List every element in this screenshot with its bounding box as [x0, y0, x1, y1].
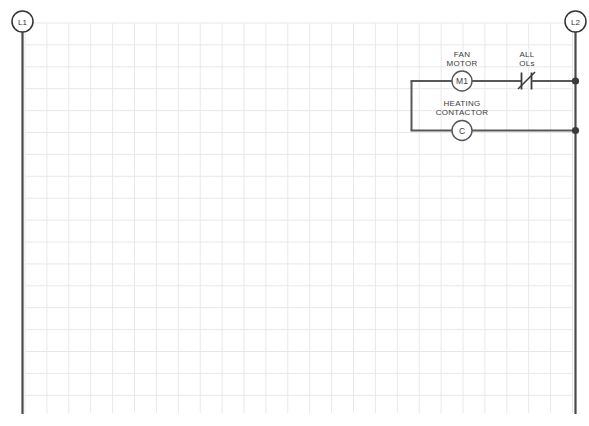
rung-heating-contactor: C HEATING CONTACTOR	[411, 99, 580, 141]
rung1-junction-dot	[572, 77, 579, 84]
heating-contactor-label-line2: CONTACTOR	[436, 108, 489, 117]
heating-contactor-label-line1: HEATING	[443, 99, 480, 108]
l2-terminal-label: L2	[571, 18, 580, 27]
l1-terminal-label: L1	[18, 18, 27, 27]
ladder-diagram-canvas: L1 L2 M1 FAN MOTOR	[0, 0, 589, 426]
left-rail-group: L1	[12, 11, 33, 414]
fan-motor-label-line1: FAN	[454, 50, 470, 59]
c-coil-designation: C	[459, 126, 465, 136]
rung-fan-motor: M1 FAN MOTOR ALL OLs	[411, 50, 580, 91]
right-rail-group: L2	[565, 11, 586, 414]
m1-coil-designation: M1	[456, 76, 468, 86]
fan-motor-label-line2: MOTOR	[446, 59, 477, 68]
all-ols-label-line1: ALL	[519, 50, 534, 59]
all-ols-label-line2: OLs	[519, 59, 535, 68]
ladder-diagram-svg: L1 L2 M1 FAN MOTOR	[0, 0, 589, 426]
rung2-junction-dot	[572, 127, 579, 134]
